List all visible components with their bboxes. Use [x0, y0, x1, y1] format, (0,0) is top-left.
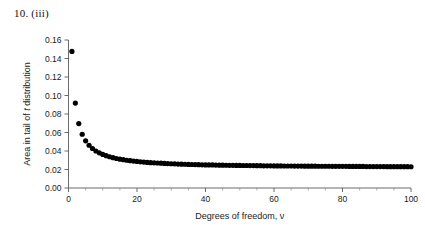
data-point: [73, 100, 78, 105]
data-point: [76, 121, 81, 126]
y-axis-title: Area in tail of t distribution: [22, 62, 32, 166]
y-tick-label: 0.14: [45, 54, 62, 64]
x-tick-label: 100: [404, 194, 418, 204]
data-point: [69, 49, 74, 54]
y-tick-label: 0.16: [45, 35, 62, 45]
y-tick-label: 0.06: [45, 128, 62, 138]
scatter-chart: 0.000.020.040.060.080.100.120.140.16 020…: [0, 0, 425, 237]
x-axis-title: Degrees of freedom, ν: [195, 211, 285, 221]
y-tick-label: 0.12: [45, 72, 62, 82]
data-point: [83, 138, 88, 143]
x-tick-label: 0: [66, 194, 71, 204]
y-tick-label: 0.10: [45, 91, 62, 101]
data-points-group: [69, 49, 413, 169]
data-point: [80, 132, 85, 137]
y-tick-label: 0.04: [45, 146, 62, 156]
y-tick-label: 0.00: [45, 183, 62, 193]
x-tick-label: 40: [201, 194, 211, 204]
y-tick-label: 0.02: [45, 165, 62, 175]
y-axis-ticks: 0.000.020.040.060.080.100.120.140.16: [45, 35, 69, 193]
x-tick-label: 80: [338, 194, 348, 204]
t-symbol: t: [22, 108, 32, 111]
x-tick-label: 60: [269, 194, 279, 204]
x-tick-label: 20: [132, 194, 142, 204]
x-axis-ticks: 020406080100: [66, 188, 418, 204]
data-point: [408, 164, 413, 169]
nu-symbol: ν: [280, 211, 285, 221]
figure-panel: 10. (iii) 0.000.020.040.060.080.100.120.…: [0, 0, 425, 237]
y-tick-label: 0.08: [45, 109, 62, 119]
